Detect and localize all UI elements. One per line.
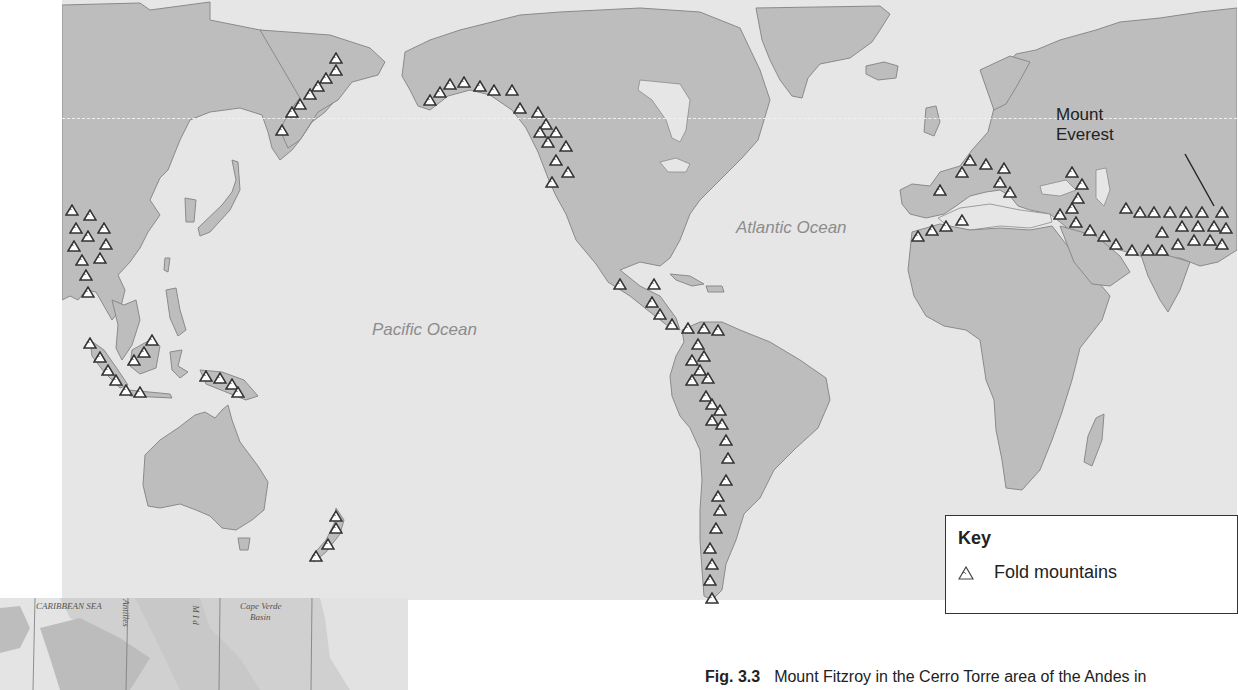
inset-label-basin: Basin	[250, 612, 271, 622]
key-title: Key	[958, 528, 991, 549]
map-key: Key Fold mountains	[945, 515, 1238, 614]
fold-mountain-triangle-icon	[958, 566, 974, 580]
figure-number: Fig. 3.3	[705, 668, 760, 685]
key-item-label: Fold mountains	[994, 562, 1117, 583]
figure-caption: Fig. 3.3Mount Fitzroy in the Cerro Torre…	[705, 668, 1146, 686]
key-item-fold-mountains: Fold mountains	[958, 562, 1117, 583]
caption-text: Mount Fitzroy in the Cerro Torre area of…	[774, 668, 1146, 685]
inset-physical-map: CARIBBEAN SEA Antilles M I d Cape Verde …	[0, 598, 408, 690]
inset-map-terrain	[0, 598, 408, 690]
inset-label-antilles: Antilles	[121, 599, 131, 627]
inset-label-cape-verde: Cape Verde	[240, 601, 281, 611]
inset-label-caribbean: CARIBBEAN SEA	[36, 601, 102, 611]
inset-label-mid: M I d	[191, 605, 201, 625]
